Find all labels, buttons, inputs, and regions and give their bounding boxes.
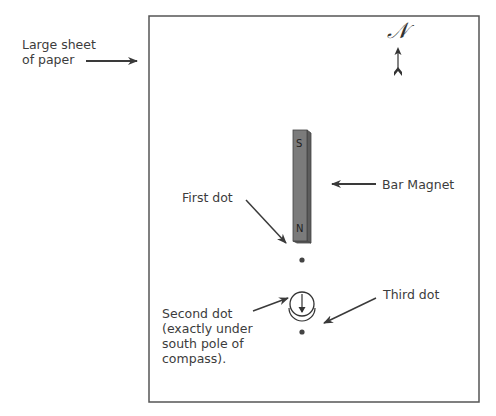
north-symbol: 𝒩 <box>387 18 408 43</box>
magnet-south-pole: S <box>296 138 302 149</box>
third-dot <box>299 329 304 334</box>
first-dot <box>299 257 304 262</box>
magnet-north-pole: N <box>296 223 303 234</box>
bar-magnet: S N <box>293 130 311 243</box>
compass-icon <box>289 292 315 321</box>
third-dot-label: Third dot <box>383 287 439 302</box>
paper-label: Large sheet of paper <box>22 37 96 67</box>
second-dot-label: Second dot (exactly under south pole of … <box>162 306 253 366</box>
bar-magnet-label: Bar Magnet <box>382 177 454 192</box>
first-dot-label: First dot <box>182 190 233 205</box>
